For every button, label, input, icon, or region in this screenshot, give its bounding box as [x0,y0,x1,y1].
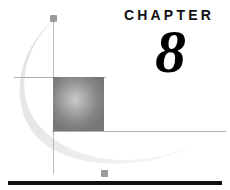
gradient-square [53,77,104,131]
crescent-arc-icon [0,0,230,190]
bottom-rule [8,181,222,185]
top-endpoint-dot [50,15,57,22]
lower-horizontal-rule [52,131,226,132]
chapter-number: 8 [120,20,186,82]
chapter-opener-page: CHAPTER 8 [0,0,230,190]
bottom-endpoint-dot [101,170,108,177]
